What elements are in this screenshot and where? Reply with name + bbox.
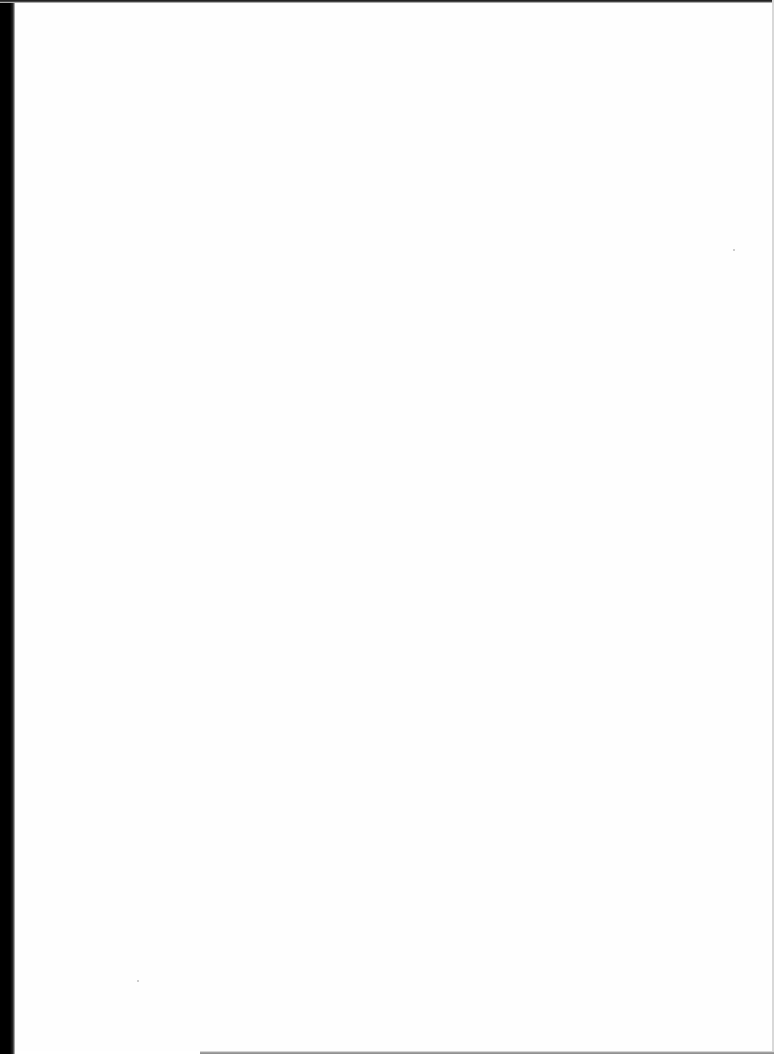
scan-border-left (0, 0, 15, 1054)
scan-speck (137, 980, 139, 982)
scan-speck (733, 249, 735, 251)
blank-page (15, 3, 772, 1051)
